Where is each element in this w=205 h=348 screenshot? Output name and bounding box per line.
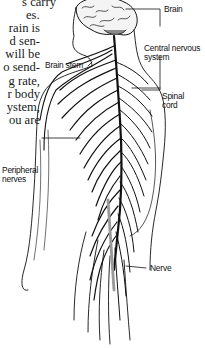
label-central-nervous-system: Central nervous system	[144, 44, 200, 61]
label-leaders	[42, 9, 160, 268]
label-brain-stem: Brain stem	[45, 61, 83, 70]
label-peripheral-nerves: Peripheral nerves	[2, 166, 38, 183]
brain-icon	[76, 0, 137, 35]
label-spinal-cord: Spinal cord	[162, 92, 184, 109]
label-nerve: Nerve	[150, 264, 171, 273]
label-brain: Brain	[164, 5, 183, 14]
